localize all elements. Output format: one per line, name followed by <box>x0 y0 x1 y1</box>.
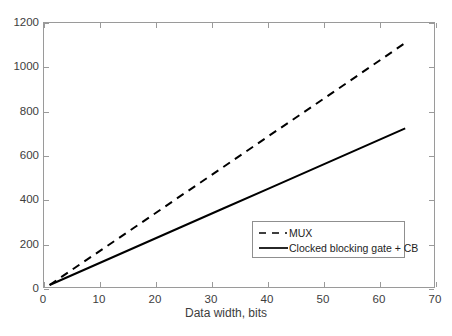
legend-label-clocked-blocking-gate: Clocked blocking gate + CB <box>289 242 418 254</box>
y-tick-label: 600 <box>1 149 39 161</box>
series-line <box>50 128 406 285</box>
solid-line-swatch-icon <box>257 242 289 254</box>
dashed-line-swatch-icon <box>257 227 289 239</box>
y-tick-label: 800 <box>1 105 39 117</box>
legend-item-clocked-blocking-gate: Clocked blocking gate + CB <box>257 240 400 255</box>
x-tick-label: 10 <box>79 293 119 305</box>
x-tick-label: 50 <box>303 293 343 305</box>
x-axis-label: Data width, bits <box>0 306 452 320</box>
x-tick-label: 0 <box>23 293 63 305</box>
chart-legend: MUX Clocked blocking gate + CB <box>252 221 405 258</box>
x-tick-label: 70 <box>415 293 452 305</box>
y-tick-label: 1000 <box>1 60 39 72</box>
legend-label-mux: MUX <box>289 227 312 239</box>
y-tick-mark-right <box>429 289 434 290</box>
legend-item-mux: MUX <box>257 225 400 240</box>
x-tick-label: 30 <box>191 293 231 305</box>
x-tick-mark <box>436 282 437 287</box>
y-tick-label: 1200 <box>1 16 39 28</box>
y-tick-mark <box>44 289 49 290</box>
x-tick-mark-top <box>436 23 437 28</box>
x-tick-label: 40 <box>247 293 287 305</box>
chart-figure: 020040060080010001200 010203040506070 Da… <box>0 0 452 336</box>
x-tick-label: 20 <box>135 293 175 305</box>
x-tick-label: 60 <box>359 293 399 305</box>
y-tick-label: 200 <box>1 238 39 250</box>
y-tick-label: 400 <box>1 193 39 205</box>
